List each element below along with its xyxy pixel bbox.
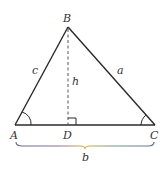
side-c	[15, 27, 68, 125]
angle-arc-A	[22, 112, 31, 125]
right-angle-marker	[68, 118, 76, 125]
label-side-a: a	[117, 64, 124, 77]
bracket-b	[16, 142, 154, 149]
label-side-c: c	[32, 64, 38, 77]
label-altitude-h: h	[72, 75, 79, 88]
label-vertex-A: A	[9, 129, 18, 142]
triangle-diagram: B A D C c h a b	[0, 0, 166, 169]
side-a	[68, 27, 155, 125]
label-vertex-B: B	[62, 12, 71, 25]
angle-arc-C	[141, 115, 146, 125]
label-vertex-C: C	[150, 129, 159, 142]
label-vertex-D: D	[62, 129, 72, 142]
label-side-b: b	[82, 151, 89, 164]
